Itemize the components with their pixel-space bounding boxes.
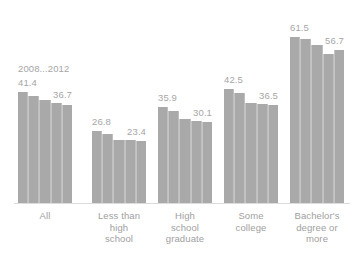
series-caption: 2008...2012 [18, 63, 69, 74]
bar [136, 141, 146, 205]
bar [268, 105, 278, 204]
bar [290, 37, 300, 204]
plot-area: 41.436.726.823.435.930.142.536.561.556.7 [0, 0, 363, 204]
bar-value-label: 56.7 [325, 35, 344, 46]
bar-group-bars [92, 0, 146, 204]
bar [102, 134, 113, 204]
category-label-line: degree or [278, 222, 356, 234]
bar-value-label: 36.7 [53, 89, 72, 100]
bar-value-label: 26.8 [92, 116, 111, 127]
bar [113, 140, 124, 205]
bar-group: 35.930.1 [158, 0, 212, 204]
bar [92, 131, 102, 204]
bar [28, 96, 39, 205]
bar [18, 92, 28, 204]
bar [179, 119, 190, 204]
bar-value-label: 41.4 [18, 77, 37, 88]
bar-group-bars [224, 0, 278, 204]
bar [300, 39, 311, 204]
category-label-line: college [214, 222, 288, 234]
bar [51, 103, 62, 204]
category-label: Less thanhighschool [82, 210, 156, 245]
category-label-line: All [10, 210, 80, 222]
bar [257, 104, 268, 204]
bar [202, 122, 212, 204]
category-label-line: school [82, 233, 156, 245]
bar [234, 93, 245, 205]
bar-group: 61.556.7 [290, 0, 344, 204]
x-axis-line [14, 203, 350, 204]
category-label-line: graduate [148, 233, 222, 245]
bar [39, 100, 50, 204]
bar-chart: 41.436.726.823.435.930.142.536.561.556.7… [0, 0, 363, 257]
bar [62, 105, 72, 205]
category-label: All [10, 210, 80, 222]
category-label-line: Bachelor's [278, 210, 356, 222]
bar [191, 121, 202, 204]
bar-value-label: 35.9 [158, 92, 177, 103]
category-label: Bachelor'sdegree ormore [278, 210, 356, 245]
category-label-line: high [82, 222, 156, 234]
category-axis-labels: AllLess thanhighschoolHighschoolgraduate… [0, 210, 363, 257]
bar-value-label: 36.5 [259, 90, 278, 101]
category-label: Somecollege [214, 210, 288, 233]
bar-value-label: 42.5 [224, 74, 243, 85]
bar-value-label: 61.5 [290, 22, 309, 33]
bar-group: 26.823.4 [92, 0, 146, 204]
category-label: Highschoolgraduate [148, 210, 222, 245]
category-label-line: school [148, 222, 222, 234]
bar [334, 50, 344, 204]
bar [323, 54, 334, 204]
bar [158, 107, 168, 204]
category-label-line: Less than [82, 210, 156, 222]
bar-group-bars [18, 0, 72, 204]
bar [245, 103, 256, 204]
bar [168, 111, 179, 204]
bar [311, 45, 322, 205]
bar-value-label: 30.1 [193, 107, 212, 118]
bar [224, 89, 234, 204]
category-label-line: more [278, 233, 356, 245]
category-label-line: High [148, 210, 222, 222]
bar-value-label: 23.4 [127, 126, 146, 137]
category-label-line: Some [214, 210, 288, 222]
bar-group: 41.436.7 [18, 0, 72, 204]
bar-group: 42.536.5 [224, 0, 278, 204]
bar [125, 140, 136, 204]
